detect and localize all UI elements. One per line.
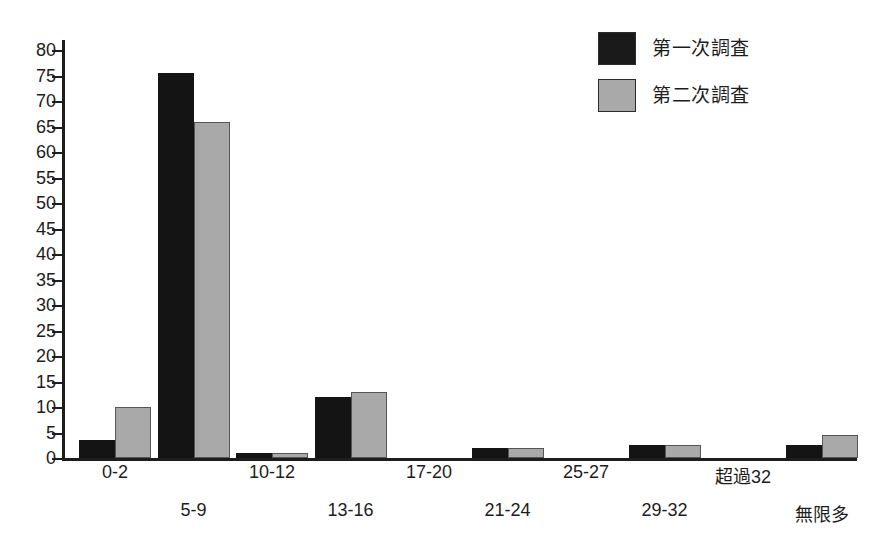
y-tick-label: 50 [36, 193, 56, 214]
y-tick-label: 55 [36, 167, 56, 188]
y-tick-label: 65 [36, 116, 56, 137]
bar-second-survey [351, 392, 387, 458]
bars-layer [65, 40, 862, 458]
y-tick-label: 30 [36, 295, 56, 316]
y-tick-label: 20 [36, 346, 56, 367]
y-tick-label: 5 [46, 422, 56, 443]
bar-group [158, 73, 230, 458]
bar-first-survey [79, 440, 115, 458]
y-tick-label: 80 [36, 40, 56, 61]
bar-second-survey [665, 445, 701, 458]
y-tick-label: 75 [36, 65, 56, 86]
x-axis-label: 21-24 [484, 500, 530, 521]
bar-first-survey [158, 73, 194, 458]
bar-second-survey [508, 448, 544, 458]
y-tick-label: 40 [36, 244, 56, 265]
bar-second-survey [822, 435, 858, 458]
bar-group [472, 448, 544, 458]
bar-group [315, 392, 387, 458]
x-axis-label: 超過32 [715, 462, 771, 488]
bar-second-survey [115, 407, 151, 458]
y-tick-label: 15 [36, 371, 56, 392]
x-axis-label: 無限多 [795, 500, 849, 526]
bar-first-survey [629, 445, 665, 458]
y-tick-label: 10 [36, 397, 56, 418]
y-tick-label: 45 [36, 218, 56, 239]
plot-area: 05101520253035404550556065707580 [62, 40, 862, 464]
x-axis-label: 17-20 [406, 462, 452, 483]
bar-group [629, 445, 701, 458]
bar-first-survey [236, 453, 272, 458]
x-axis-label: 0-2 [102, 462, 128, 483]
y-tick-label: 70 [36, 91, 56, 112]
x-axis-labels: 0-25-910-1213-1617-2021-2425-2729-32超過32… [62, 462, 862, 532]
x-axis-label: 13-16 [327, 500, 373, 521]
y-tick-label: 0 [46, 448, 56, 469]
x-axis-label: 10-12 [249, 462, 295, 483]
x-axis-line [62, 458, 857, 461]
x-axis-label: 25-27 [563, 462, 609, 483]
bar-first-survey [786, 445, 822, 458]
bar-second-survey [194, 122, 230, 458]
y-tick-label: 35 [36, 269, 56, 290]
bar-second-survey [272, 453, 308, 458]
bar-group [786, 435, 858, 458]
bar-group [79, 407, 151, 458]
y-tick-label: 60 [36, 142, 56, 163]
chart-page: 第一次調査 第二次調査 0510152025303540455055606570… [0, 0, 891, 537]
bar-first-survey [472, 448, 508, 458]
x-axis-label: 5-9 [180, 500, 206, 521]
x-axis-label: 29-32 [641, 500, 687, 521]
bar-group [236, 453, 308, 458]
y-tick-label: 25 [36, 320, 56, 341]
bar-first-survey [315, 397, 351, 458]
